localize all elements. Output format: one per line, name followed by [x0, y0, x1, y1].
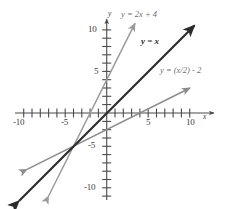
coordinate-plane	[0, 0, 229, 209]
x-axis	[15, 109, 214, 118]
graph-figure: -10 -5 5 10 10 5 -5 -10 y x y = 2x + 4 y…	[0, 0, 229, 209]
x-tick-label-5: 5	[146, 118, 150, 127]
y-axis-name: y	[108, 10, 111, 18]
equation-label-line2: y = x	[141, 37, 159, 46]
equation-label-line3: y = (x/2) - 2	[160, 66, 201, 75]
x-tick-label-neg5: -5	[61, 118, 68, 127]
line-y-x-over-2-minus-2	[27, 88, 190, 169]
y-tick-label-neg10: -10	[84, 183, 95, 192]
x-axis-name: x	[203, 113, 206, 121]
equation-label-line1: y = 2x + 4	[121, 10, 157, 19]
x-tick-label-neg10: -10	[13, 118, 24, 127]
y-tick-label-neg5: -5	[88, 141, 95, 150]
y-tick-label-5: 5	[94, 67, 98, 76]
x-tick-label-10: 10	[186, 118, 195, 127]
line-y-2x-plus-4	[49, 23, 135, 196]
y-tick-label-10: 10	[88, 25, 97, 34]
